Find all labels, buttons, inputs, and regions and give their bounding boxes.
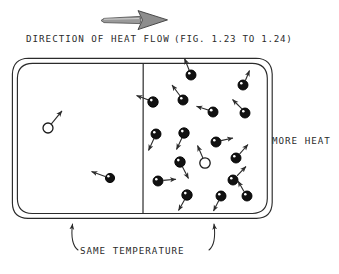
hotter-chamber-particles (137, 59, 253, 212)
gas-container (12, 58, 272, 218)
cooler-chamber-particles (43, 111, 115, 183)
figure-reference-label: (FIG. 1.23 TO 1.24) (174, 34, 292, 43)
more-heat-label: MORE HEAT (272, 136, 331, 145)
direction-of-heat-flow-label: DIRECTION OF HEAT FLOW (26, 34, 170, 43)
same-temperature-label: SAME TEMPERATURE (80, 246, 185, 255)
figure-page: DIRECTION OF HEAT FLOW (FIG. 1.23 TO 1.2… (0, 0, 339, 274)
right-arrow-icon (101, 11, 168, 30)
